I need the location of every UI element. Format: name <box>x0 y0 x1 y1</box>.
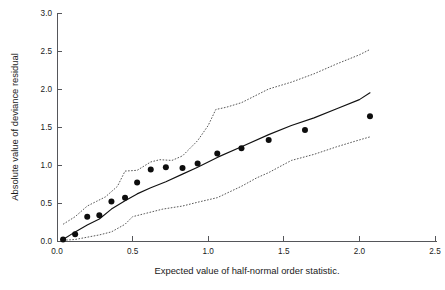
x-tick-label: 2.5 <box>429 247 441 256</box>
data-point-marker <box>96 212 102 218</box>
scatter-points-group <box>60 113 373 242</box>
data-point-marker <box>148 167 154 173</box>
x-axis-ticks: 0.00.51.01.52.02.5 <box>51 236 441 256</box>
y-tick-label: 3.0 <box>41 9 53 18</box>
data-point-marker <box>367 113 373 119</box>
y-tick-label: 1.5 <box>41 123 53 132</box>
y-tick-label: 2.0 <box>41 85 53 94</box>
data-point-marker <box>108 198 114 204</box>
x-tick-label: 2.0 <box>354 247 366 256</box>
y-tick-label: 0.0 <box>41 237 53 246</box>
data-point-marker <box>134 179 140 185</box>
x-axis-title: Expected value of half-normal order stat… <box>155 265 340 276</box>
y-tick-label: 0.5 <box>41 199 53 208</box>
data-point-marker <box>302 127 308 133</box>
y-tick-label: 2.5 <box>41 47 53 56</box>
fitted-mean-line <box>63 93 370 240</box>
y-axis-title: Absolute value of deviance residual <box>9 53 20 201</box>
data-point-marker <box>60 236 66 242</box>
axis-lines <box>57 13 437 241</box>
data-point-marker <box>214 151 220 157</box>
half-normal-plot-figure: 0.00.51.01.52.02.5 0.00.51.01.52.02.53.0… <box>0 0 445 290</box>
data-point-marker <box>72 231 78 237</box>
data-point-marker <box>163 164 169 170</box>
x-tick-label: 1.5 <box>278 247 290 256</box>
y-tick-label: 1.0 <box>41 161 53 170</box>
data-point-marker <box>266 137 272 143</box>
data-point-marker <box>122 195 128 201</box>
data-point-marker <box>195 160 201 166</box>
x-tick-label: 0.5 <box>127 247 139 256</box>
x-tick-label: 0.0 <box>51 247 63 256</box>
chart-canvas: 0.00.51.01.52.02.5 0.00.51.01.52.02.53.0… <box>0 0 445 290</box>
x-tick-label: 1.0 <box>203 247 215 256</box>
data-point-marker <box>84 214 90 220</box>
data-point-marker <box>180 165 186 171</box>
data-point-marker <box>238 145 244 151</box>
y-axis-ticks: 0.00.51.01.52.02.53.0 <box>41 9 62 246</box>
